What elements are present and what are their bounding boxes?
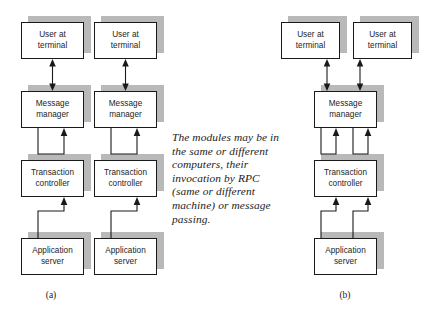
panel-a-col1-user-terminal: User at terminal [21, 22, 84, 59]
panel-b-user-terminal-2: User at terminal [353, 22, 412, 59]
panel-a-col1-transaction-controller: Transaction controller [21, 160, 84, 197]
panel-b-transaction-controller: Transaction controller [314, 160, 377, 197]
node-label: User at terminal [38, 30, 68, 51]
node-label: Application server [325, 246, 366, 267]
panel-a-col2-application-server: Application server [94, 238, 157, 275]
panel-a-col2-transaction-controller: Transaction controller [94, 160, 157, 197]
panel-a-col1-application-server: Application server [21, 238, 84, 275]
panel-a-col1-arrow-user-message [21, 59, 84, 91]
panel-a-col1-link-message-transaction [21, 128, 84, 160]
panel-b-application-server: Application server [314, 238, 377, 275]
panel-a-col2-message-manager: Message manager [94, 91, 157, 128]
node-label: Transaction controller [104, 168, 147, 189]
node-label: User at terminal [296, 30, 326, 51]
panel-a-caption: (a) [31, 290, 71, 300]
node-label: Message manager [109, 99, 143, 120]
panel-b-link-message-transaction [314, 128, 377, 160]
node-label: Message manager [36, 99, 70, 120]
panel-b-caption: (b) [325, 290, 365, 300]
panel-b-user-terminal-1: User at terminal [281, 22, 340, 59]
node-label: Transaction controller [324, 168, 367, 189]
panel-a-col2-user-terminal: User at terminal [94, 22, 157, 59]
node-label: Application server [105, 246, 146, 267]
panel-b-arrow-user2-message [355, 59, 365, 91]
panel-b-arrow-user1-message [322, 59, 332, 91]
node-label: User at terminal [111, 30, 141, 51]
panel-a-col1-link-transaction-application [21, 197, 84, 238]
panel-a-col1-message-manager: Message manager [21, 91, 84, 128]
node-label: Application server [32, 246, 73, 267]
explanatory-note: The modules may be in the same or differ… [172, 131, 282, 226]
panel-a-col2-link-transaction-application [94, 197, 157, 238]
panel-a-col2-link-message-transaction [94, 128, 157, 160]
panel-b-message-manager: Message manager [314, 91, 377, 128]
architecture-diagram: User at terminal Message manager Transac… [0, 0, 427, 315]
panel-a-col2-arrow-user-message [94, 59, 157, 91]
node-label: User at terminal [368, 30, 398, 51]
node-label: Transaction controller [31, 168, 74, 189]
panel-b-link-transaction-application [314, 197, 377, 238]
node-label: Message manager [329, 99, 363, 120]
